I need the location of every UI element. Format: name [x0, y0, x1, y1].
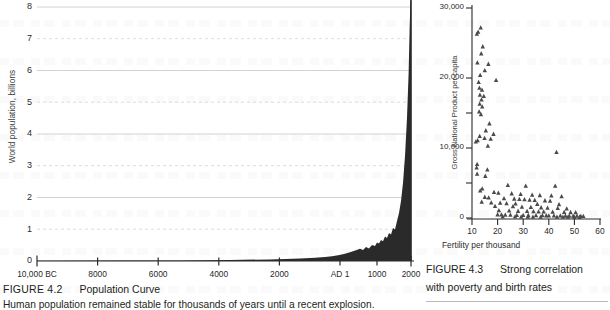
scatter-point — [559, 194, 563, 198]
scatter-point — [477, 134, 481, 138]
y-tick-pop-7: 7 — [18, 34, 32, 43]
scatter-point — [486, 195, 490, 199]
figure-4-2-caption: FIGURE 4.2 Population Curve — [3, 283, 160, 295]
x-tick-pop-8000: 8000 — [73, 270, 123, 278]
scatter-point — [489, 200, 493, 204]
scatter-point — [524, 183, 528, 187]
scatter-point — [509, 191, 513, 195]
scatter-point — [533, 198, 537, 202]
scatter-point — [531, 209, 535, 213]
y-tick-pop-2: 2 — [18, 193, 32, 202]
scatter-point — [516, 209, 520, 213]
scatter-point — [513, 201, 517, 205]
caption-divider-rule — [426, 301, 608, 302]
scatter-point — [545, 205, 549, 209]
figure-4-2-population-curve: 8 7 6 5 4 3 2 1 0 World population, bill… — [0, 0, 424, 309]
scatter-point — [522, 197, 526, 201]
scatter-point — [518, 192, 522, 196]
scatter-point — [507, 208, 511, 212]
figure-4-3-caption-number: FIGURE 4.3 — [426, 263, 483, 275]
scatter-point — [482, 94, 486, 98]
scatter-point — [529, 205, 533, 209]
y-tick-gnp-30000: 30,000 — [416, 3, 464, 11]
y-tick-pop-0: 0 — [18, 256, 32, 265]
scatter-point — [512, 196, 516, 200]
gnp-axes — [466, 5, 601, 225]
scatter-point — [550, 209, 554, 213]
scatter-point — [543, 198, 547, 202]
population-chart-canvas — [0, 0, 424, 280]
figure-4-2-caption-number: FIGURE 4.2 — [3, 283, 63, 295]
scatter-point — [503, 212, 507, 216]
y-tick-gnp-0: 0 — [416, 213, 464, 221]
scatter-point — [492, 190, 496, 194]
x-tick-pop-2000bc: 2000 — [254, 270, 304, 278]
scatter-point — [530, 193, 534, 197]
scatter-point — [502, 196, 506, 200]
scatter-point — [508, 213, 512, 217]
scatter-point — [506, 183, 510, 187]
scatter-point — [485, 167, 489, 171]
scatter-point — [487, 121, 491, 125]
scatter-point — [477, 85, 481, 89]
scatter-point — [484, 128, 488, 132]
scatter-point — [525, 209, 529, 213]
y-tick-pop-4: 4 — [18, 129, 32, 138]
figure-4-3-caption-line1: FIGURE 4.3 Strong correlation — [426, 263, 583, 275]
scatter-point — [496, 190, 500, 194]
scatter-point — [477, 102, 481, 106]
y-tick-pop-1: 1 — [18, 225, 32, 234]
x-tick-gnp-30: 30 — [513, 227, 533, 235]
scatter-point — [557, 202, 561, 206]
scatter-point — [483, 68, 487, 72]
scatter-point — [568, 210, 572, 214]
scatter-point — [573, 210, 577, 214]
scatter-point — [481, 44, 485, 48]
y-tick-pop-5: 5 — [18, 98, 32, 107]
scatter-point — [491, 132, 495, 136]
x-tick-pop-6000: 6000 — [133, 270, 183, 278]
figure-4-2-caption-subtitle: Human population remained stable for tho… — [3, 299, 375, 310]
gnp-x-axis-label: Fertility per thousand — [442, 240, 610, 250]
scatter-point — [552, 213, 556, 217]
x-tick-gnp-40: 40 — [539, 227, 559, 235]
scatter-point — [548, 198, 552, 202]
scatter-point — [488, 137, 492, 141]
x-tick-gnp-60: 60 — [590, 227, 610, 235]
scatter-point — [556, 206, 560, 210]
scatter-point — [565, 206, 569, 210]
scatter-point — [479, 25, 483, 29]
y-tick-pop-6: 6 — [18, 66, 32, 75]
x-tick-gnp-10: 10 — [462, 227, 482, 235]
figure-4-2-caption-title: Population Curve — [80, 283, 161, 295]
population-gridlines — [37, 7, 411, 229]
gnp-y-axis-label: Gross National Product per capita — [450, 28, 459, 198]
scatter-point — [478, 73, 482, 77]
x-tick-pop-4000: 4000 — [194, 270, 244, 278]
scatter-point — [497, 208, 501, 212]
scatter-point — [494, 78, 498, 82]
figure-4-3-gnp-scatter: 30,000 20,000 10,000 0 Gross National Pr… — [424, 0, 610, 309]
scatter-point — [517, 197, 521, 201]
scatter-point — [535, 202, 539, 206]
scatter-point — [486, 62, 490, 66]
scatter-point — [480, 200, 484, 204]
scatter-point — [549, 193, 553, 197]
scatter-point — [482, 136, 486, 140]
scatter-point — [486, 144, 490, 148]
scatter-point — [541, 209, 545, 213]
figure-4-3-caption-line2: with poverty and birth rates — [426, 281, 552, 293]
scatter-point — [475, 162, 479, 166]
scatter-point — [527, 197, 531, 201]
scatter-point — [483, 174, 487, 178]
scatter-point — [475, 60, 479, 64]
scatter-point — [554, 150, 558, 154]
scatter-point — [495, 212, 499, 216]
x-tick-gnp-50: 50 — [564, 227, 584, 235]
scatter-point — [478, 92, 482, 96]
scatter-point — [493, 204, 497, 208]
x-tick-pop-10000bc: 10,000 BC — [2, 270, 72, 278]
scatter-point — [475, 172, 479, 176]
scatter-point — [539, 205, 543, 209]
